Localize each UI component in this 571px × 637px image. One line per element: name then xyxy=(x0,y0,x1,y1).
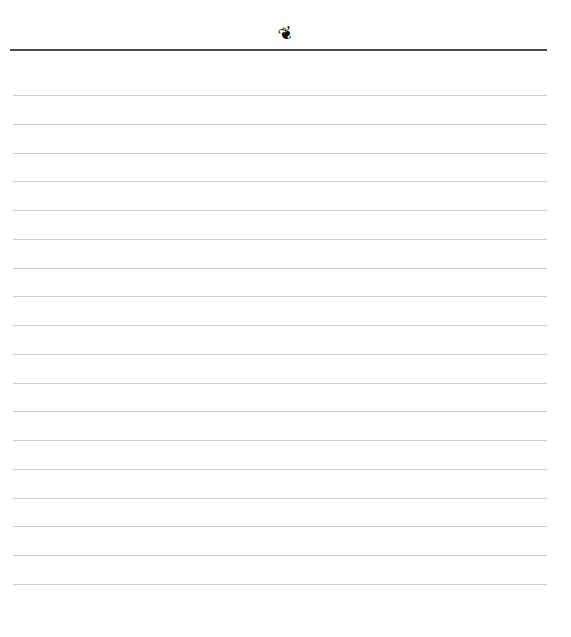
ruled-line xyxy=(13,555,547,556)
ruled-line xyxy=(13,268,547,269)
floral-heart-icon: ❦ xyxy=(275,22,296,46)
ruled-line xyxy=(13,296,547,297)
ruled-line xyxy=(13,95,547,96)
header-ornament: ❦ xyxy=(0,24,571,44)
ruled-line xyxy=(13,210,547,211)
ruled-line xyxy=(13,498,547,499)
ruled-line xyxy=(13,181,547,182)
header-rule xyxy=(10,49,547,51)
ruled-line xyxy=(13,383,547,384)
ruled-line xyxy=(13,584,547,585)
ruled-line xyxy=(13,239,547,240)
ruled-line xyxy=(13,354,547,355)
ruled-line xyxy=(13,440,547,441)
ruled-line xyxy=(13,325,547,326)
ruled-line xyxy=(13,526,547,527)
ruled-line xyxy=(13,469,547,470)
ruled-line xyxy=(13,124,547,125)
ruled-line xyxy=(13,153,547,154)
ruled-line xyxy=(13,411,547,412)
